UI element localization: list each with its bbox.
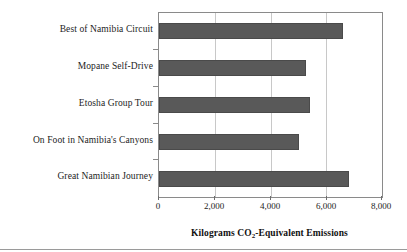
x-axis-tick-0 bbox=[158, 196, 159, 200]
bar-band-3 bbox=[159, 123, 382, 160]
bar-band-1 bbox=[159, 50, 382, 87]
y-axis-label-0: Best of Namibia Circuit bbox=[4, 24, 158, 35]
x-axis-tick-label-2000: 2,000 bbox=[204, 201, 224, 211]
plot-area bbox=[158, 12, 383, 198]
x-axis-tick-2000 bbox=[214, 196, 215, 200]
x-axis-title-after: -Equivalent Emissions bbox=[255, 228, 348, 238]
x-axis-tick-4000 bbox=[270, 196, 271, 200]
bar-band-0 bbox=[159, 13, 382, 50]
y-axis-category-labels: Best of Namibia Circuit Mopane Self-Driv… bbox=[0, 12, 158, 196]
bar-mopane-self-drive[interactable] bbox=[159, 60, 306, 76]
y-axis-label-1: Mopane Self-Drive bbox=[4, 61, 158, 72]
bar-on-foot-in-namibias-canyons[interactable] bbox=[159, 134, 299, 150]
x-axis-tick-8000 bbox=[381, 196, 382, 200]
bar-band-4 bbox=[159, 160, 382, 197]
bar-etosha-group-tour[interactable] bbox=[159, 97, 310, 113]
chart-figure: Best of Namibia Circuit Mopane Self-Driv… bbox=[0, 0, 407, 252]
x-axis-tick-label-6000: 6,000 bbox=[316, 201, 336, 211]
x-axis-tick-label-4000: 4,000 bbox=[260, 201, 280, 211]
x-axis-tick-label-8000: 8,000 bbox=[371, 201, 391, 211]
x-axis-title: Kilograms CO2-Equivalent Emissions bbox=[158, 228, 381, 240]
x-axis-title-before: Kilograms CO bbox=[191, 228, 252, 238]
bar-band-2 bbox=[159, 87, 382, 124]
y-axis-label-2: Etosha Group Tour bbox=[4, 98, 158, 109]
y-axis-label-3: On Foot in Namibia's Canyons bbox=[4, 135, 158, 146]
y-axis-label-4: Great Namibian Journey bbox=[4, 171, 158, 182]
page-bottom-rule bbox=[0, 249, 407, 250]
x-axis-tick-label-0: 0 bbox=[156, 201, 161, 211]
bar-great-namibian-journey[interactable] bbox=[159, 171, 349, 187]
bar-best-of-namibia-circuit[interactable] bbox=[159, 23, 343, 39]
x-axis-tick-6000 bbox=[326, 196, 327, 200]
